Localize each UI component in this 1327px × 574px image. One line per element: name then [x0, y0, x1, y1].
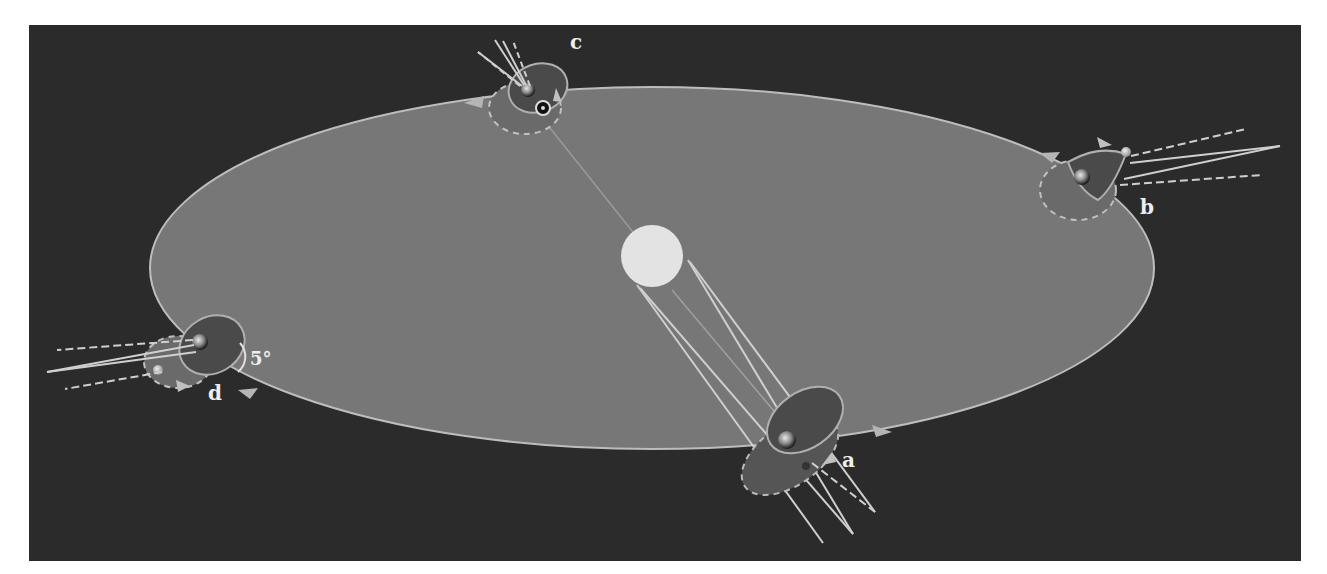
label-position-c: c [570, 30, 582, 54]
inclination-label: 5° [250, 348, 272, 369]
sun-symbol-dot [541, 106, 545, 110]
lunar-orbit-diagram: a b c d 5° [0, 0, 1327, 574]
earth-b [1074, 169, 1090, 185]
label-position-d: d [208, 381, 222, 405]
earth-d [192, 334, 208, 350]
moon-b [1121, 147, 1131, 157]
label-position-a: a [842, 448, 855, 472]
moon-a [802, 462, 810, 470]
label-position-b: b [1140, 195, 1154, 219]
earth-a [778, 431, 796, 449]
sun [621, 225, 683, 287]
